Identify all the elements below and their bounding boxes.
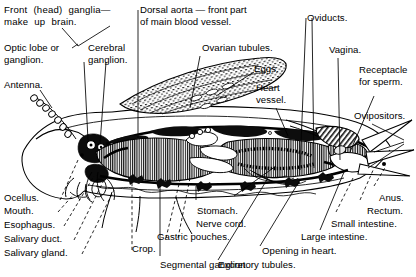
leader-salivary-duct bbox=[74, 180, 104, 240]
label-rectum: Rectum. bbox=[367, 205, 403, 217]
label-ocellus: Ocellus. bbox=[4, 192, 39, 204]
label-eggs: Eggs. bbox=[254, 63, 279, 75]
label-ovarian-tubules: Ovarian tubules. bbox=[202, 42, 273, 54]
leader-opening-in-heart bbox=[260, 180, 300, 246]
label-stomach: Stomach. bbox=[197, 205, 238, 217]
label-antenna: Antenna. bbox=[4, 79, 43, 91]
label-ovipositors: Ovipositors. bbox=[354, 110, 405, 122]
label-receptacle-for-sperm: Receptacle for sperm. bbox=[359, 64, 408, 87]
leader-cerebral-ganglion bbox=[100, 62, 106, 144]
label-mouth: Mouth. bbox=[4, 205, 34, 217]
label-vagina: Vagina. bbox=[329, 44, 361, 56]
label-large-intestine: Large intestine. bbox=[301, 231, 367, 243]
leader-salivary-gland bbox=[82, 190, 114, 254]
leader-ocellus bbox=[60, 160, 78, 200]
label-dorsal-aorta: Dorsal aorta — front part of main blood … bbox=[140, 4, 247, 27]
label-anus: Anus. bbox=[379, 192, 404, 204]
label-optic-lobe: Optic lobe or ganglion. bbox=[4, 42, 59, 65]
label-salivary-gland: Salivary gland. bbox=[4, 247, 68, 259]
leader-front-ganglia-left bbox=[62, 28, 78, 46]
label-gastric-pouches: Gastric pouches. bbox=[157, 231, 230, 243]
leader-optic-lobe bbox=[84, 62, 88, 140]
label-oviducts: Oviducts. bbox=[307, 12, 347, 24]
label-opening-in-heart: Opening in heart. bbox=[262, 245, 336, 257]
leader-gastric-pouches-a bbox=[166, 180, 180, 238]
ocellus-shape bbox=[80, 153, 84, 157]
label-small-intestine: Small intestine. bbox=[331, 218, 397, 230]
anatomy-figure-root: Front (head) ganglia— make up brain. Opt… bbox=[0, 0, 416, 277]
label-cerebral-ganglion: Cerebral ganglion. bbox=[88, 42, 127, 65]
label-front-ganglia: Front (head) ganglia— make up brain. bbox=[4, 4, 111, 27]
label-salivary-duct: Salivary duct. bbox=[4, 233, 62, 245]
label-segmental-ganglion: Segmental ganglion. bbox=[160, 259, 248, 271]
label-crop: Crop. bbox=[132, 243, 156, 255]
label-nerve-cord: Nerve cord. bbox=[196, 218, 246, 230]
anus-shape bbox=[382, 162, 386, 166]
label-heart-vessel: Heart vessel. bbox=[256, 82, 286, 105]
label-esophagus: Esophagus. bbox=[4, 219, 55, 231]
